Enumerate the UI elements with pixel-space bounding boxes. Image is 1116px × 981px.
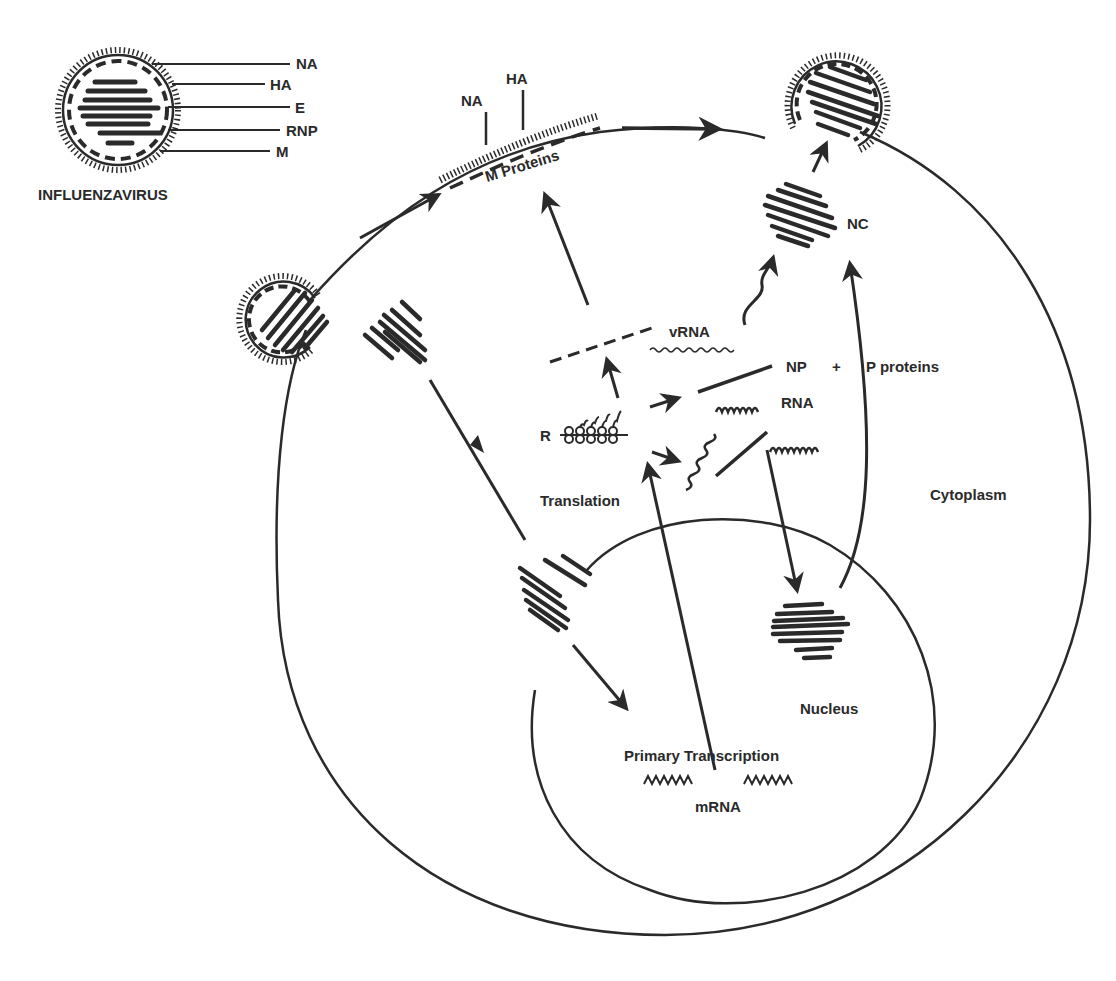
rna-strand-icon — [716, 408, 758, 412]
primary-transcription-label: Primary Transcription — [624, 747, 779, 764]
vrna-to-nc-arrow — [744, 258, 773, 325]
to-transcription-arrow — [573, 645, 626, 708]
membrane-label-na: NA — [461, 92, 483, 109]
membrane-label-ha: HA — [506, 70, 528, 87]
cytoplasm-label: Cytoplasm — [930, 486, 1007, 503]
rna-label: RNA — [781, 394, 814, 411]
rnp-to-nucleus-arrow — [430, 380, 525, 540]
vrna-label: vRNA — [669, 323, 710, 340]
nc-label: NC — [847, 215, 869, 232]
legend-label-rnp: RNP — [286, 122, 318, 139]
cell-membrane — [277, 127, 1090, 935]
mrna-strand-2-icon — [744, 776, 792, 784]
to-nucleus-arrow — [767, 450, 797, 590]
mrna-label: mRNA — [695, 798, 741, 815]
nc-to-bud-arrow — [813, 144, 826, 172]
rna-strand-2-icon — [770, 448, 818, 452]
vrna-strand-icon — [650, 348, 734, 352]
legend-label-e: E — [295, 99, 305, 116]
np-strand-2-icon — [716, 432, 767, 476]
translation-arrow — [648, 465, 715, 770]
plus-label: + — [832, 358, 841, 375]
polysome-icon — [560, 411, 628, 443]
legend-virion: NA HA E RNP M INFLUENZAVIRUS — [38, 50, 318, 203]
cytoplasmic-rnp-icon — [365, 302, 425, 362]
p-proteins-label: P proteins — [866, 358, 939, 375]
nucleus-label: Nucleus — [800, 700, 858, 717]
budding-virion — [788, 55, 888, 150]
polysome-to-np-arrow — [650, 398, 678, 407]
legend-label-na: NA — [296, 55, 318, 72]
entering-virion — [239, 276, 327, 362]
m-protein-arrow — [545, 195, 588, 305]
mrna-strand-1-icon — [644, 776, 692, 784]
nuclear-rnp-icon — [773, 604, 848, 658]
to-budding-arrow — [622, 128, 718, 129]
influenza-replication-diagram: NA HA E RNP M INFLUENZAVIRUS NA HA M Pro… — [0, 0, 1116, 981]
legend-label-ha: HA — [270, 76, 292, 93]
membrane-glycoproteins: NA HA M Proteins — [440, 70, 600, 188]
budding-path-arrow — [360, 195, 438, 238]
nucleocapsid-icon — [765, 184, 835, 246]
ribosome-label: R — [540, 427, 551, 444]
translation-label: Translation — [540, 492, 620, 509]
polysome-to-rna-arrow — [652, 452, 678, 461]
legend-label-m: M — [276, 143, 289, 160]
np-label: NP — [786, 358, 807, 375]
m-protein-dashed-icon — [550, 328, 652, 362]
nucleus-to-nc-arrow — [840, 264, 867, 588]
coiled-rna-icon — [686, 434, 715, 490]
nuclear-pore-rnp-icon — [520, 556, 590, 630]
virion-rnp-core-icon — [80, 82, 160, 143]
legend-title: INFLUENZAVIRUS — [38, 186, 168, 203]
nucleus-membrane — [532, 519, 935, 903]
np-strand-icon — [698, 366, 772, 392]
polysome-to-m-arrow — [607, 360, 618, 398]
